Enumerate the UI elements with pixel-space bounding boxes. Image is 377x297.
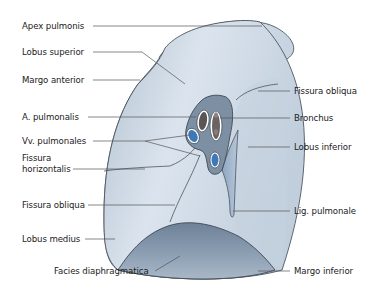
label-bronchus: Bronchus [294,113,333,123]
label-margo-anterior: Margo anterior [22,75,84,85]
label-lobus-superior: Lobus superior [22,47,84,57]
label-lig-pulmonale: Lig. pulmonale [294,206,356,216]
label-fissura-obliqua-right: Fissura obliqua [294,86,357,96]
label-a-pulmonalis: A. pulmonalis [22,112,79,122]
label-apex-pulmonis: Apex pulmonis [22,21,84,31]
label-fissura-obliqua-left: Fissura obliqua [22,200,85,210]
lung-diagram: Apex pulmonis Lobus superior Margo anter… [0,0,377,297]
label-fissura-horizontalis-line1: Fissura [22,153,51,163]
label-facies-diaphragmatica: Facies diaphragmatica [54,266,149,276]
label-vv-pulmonales: Vv. pulmonales [22,136,86,146]
label-fissura-horizontalis-line2: horizontalis [22,164,71,174]
label-lobus-inferior: Lobus inferior [294,142,351,152]
label-lobus-medius: Lobus medius [22,234,80,244]
label-margo-inferior: Margo inferior [294,266,353,276]
